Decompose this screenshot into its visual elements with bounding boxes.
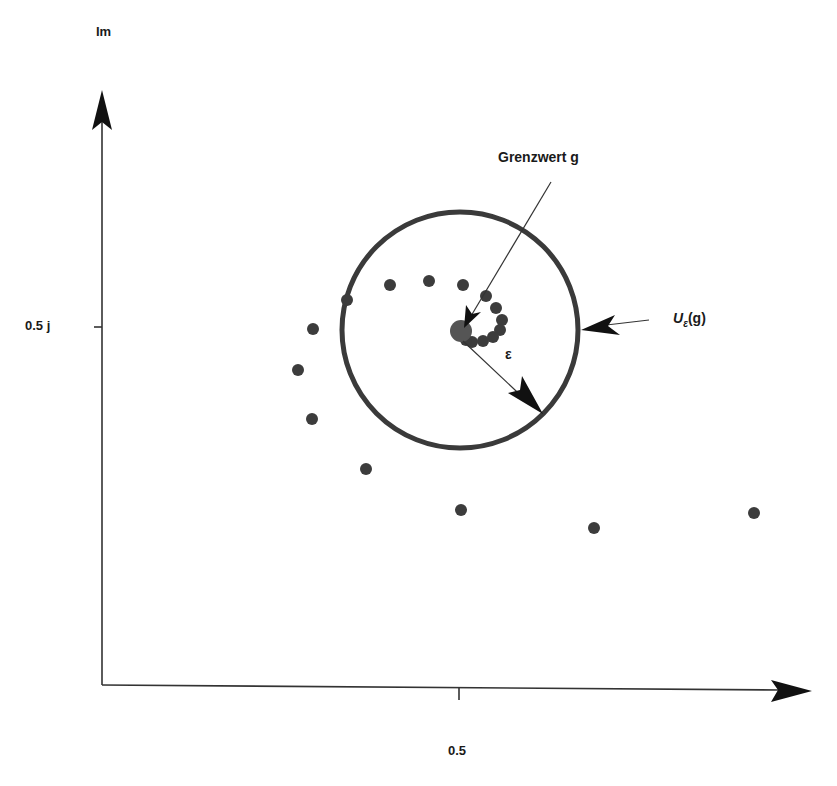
sequence-point [496,314,508,326]
limit-pointer-line [471,182,551,316]
neighborhood-label-main: U [673,310,683,326]
x-tick-label: 0.5 [448,743,466,758]
epsilon-label: ε [505,346,512,362]
neighborhood-label-arg: (g) [688,310,706,326]
x-axis-line [102,685,780,690]
limit-label: Grenzwert g [498,149,579,165]
sequence-point [588,522,600,534]
diagram-canvas [0,0,837,786]
sequence-point [477,335,489,347]
sequence-point [306,413,318,425]
sequence-point [384,279,396,291]
sequence-point [455,504,467,516]
sequence-point [490,302,502,314]
axes [92,90,812,702]
epsilon-radius-arrow-icon [508,376,543,414]
y-tick-label: 0.5 j [25,318,50,333]
sequence-point [423,275,435,287]
limit-pointer-arrow-icon [464,305,481,328]
sequence-point [457,279,469,291]
sequence-point [360,463,372,475]
sequence-point [341,294,353,306]
y-axis-label: Im [96,24,111,39]
sequence-point [748,507,760,519]
neighborhood-label: Uε(g) [673,310,706,329]
x-axis-arrow-icon [771,680,812,702]
sequence-point [307,323,319,335]
sequence-point [292,364,304,376]
neighborhood-pointer-arrow-icon [581,315,620,335]
